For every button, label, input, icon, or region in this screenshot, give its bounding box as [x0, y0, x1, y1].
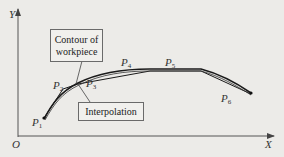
x-axis-label: X	[265, 139, 272, 150]
interpolation-callout-box: Interpolation	[78, 102, 144, 121]
point-p6-dot	[249, 91, 252, 94]
point-p1-dot	[42, 116, 45, 119]
contour-callout-line1: Contour of	[51, 34, 102, 46]
point-label-p3: P3	[86, 78, 96, 91]
point-label-p6: P6	[221, 93, 231, 106]
contour-callout-box: Contour of workpiece	[50, 29, 103, 62]
point-label-p2: P2	[53, 80, 63, 93]
diagram-graphics	[0, 0, 284, 157]
contour-leader	[76, 61, 82, 84]
contour-callout-line2: workpiece	[51, 46, 102, 58]
point-label-p5: P5	[165, 57, 175, 70]
point-label-p4: P4	[121, 57, 131, 70]
point-label-p1: P1	[32, 117, 42, 130]
origin-label: O	[12, 139, 20, 150]
y-axis-label: Y	[9, 9, 15, 20]
contour-curve	[44, 69, 251, 119]
interpolation-diagram: Y X O P1 P2 P3 P4 P5 P6 Contour of workp…	[0, 0, 284, 157]
interpolation-callout-label: Interpolation	[79, 106, 143, 118]
